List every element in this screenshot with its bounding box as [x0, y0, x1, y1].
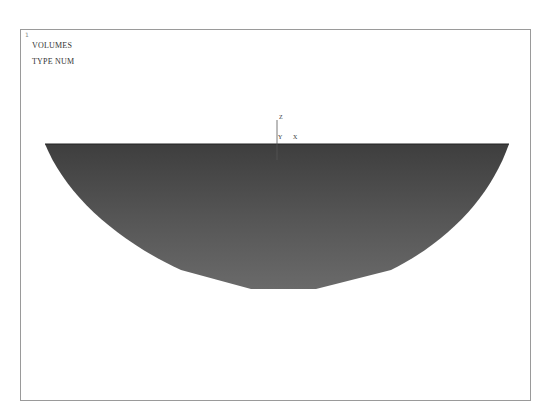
- triad-x-label: X: [293, 134, 297, 140]
- hemisphere-volume: [21, 30, 532, 402]
- triad-y-label: Y: [278, 134, 282, 140]
- triad-z-label: Z: [279, 114, 283, 120]
- graphics-viewport[interactable]: 1 VOLUMES TYPE NUM Z Y X: [20, 29, 531, 401]
